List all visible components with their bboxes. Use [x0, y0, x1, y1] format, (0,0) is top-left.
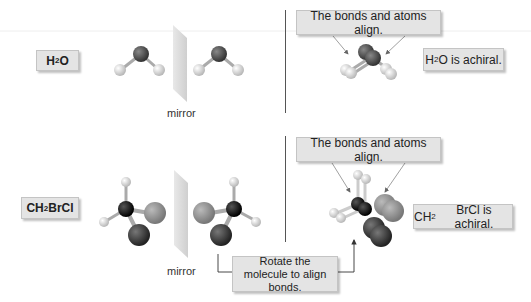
- pointer-arrow: [333, 36, 348, 54]
- ch2brcl-molecule-overlay: [329, 170, 404, 247]
- formula-text: BrCl: [48, 201, 73, 215]
- rotate-note-box: Rotate the molecule to align bonds.: [232, 256, 338, 292]
- molecule-label-ch2brcl: CH2BrCl: [21, 197, 79, 219]
- rotate-connector-arrow: [338, 240, 354, 272]
- mirror-plane: [173, 25, 187, 102]
- pointer-arrow: [385, 163, 405, 192]
- conclusion-text: H: [425, 53, 434, 67]
- mirror-label: mirror: [167, 265, 196, 277]
- conclusion-text: CH: [414, 210, 431, 224]
- formula-text: CH: [26, 201, 43, 215]
- water-molecule-overlay: [340, 44, 397, 80]
- rotate-connector-left: [218, 254, 232, 272]
- mirror-plane: [174, 170, 188, 258]
- water-molecule-left: [114, 46, 165, 76]
- conclusion-text: BrCl is achiral.: [436, 203, 512, 231]
- conclusion-box-h2o: H2O is achiral.: [423, 48, 504, 71]
- divider-line: [285, 136, 286, 242]
- formula-text: H: [46, 54, 55, 68]
- ch2brcl-molecule-right: [193, 177, 261, 246]
- divider-line: [285, 10, 286, 113]
- mirror-label: mirror: [167, 107, 196, 119]
- formula-text: O: [59, 54, 68, 68]
- conclusion-text: O is achiral.: [438, 53, 501, 67]
- ch2brcl-molecule-left: [99, 177, 166, 246]
- pointer-arrow: [332, 163, 350, 192]
- molecule-label-h2o: H2O: [36, 50, 79, 71]
- align-note-box: The bonds and atoms align.: [296, 10, 441, 35]
- water-molecule-right: [193, 46, 244, 76]
- conclusion-box-ch2brcl: CH2BrCl is achiral.: [413, 204, 513, 229]
- pointer-arrow: [386, 36, 405, 54]
- align-note-box: The bonds and atoms align.: [296, 137, 441, 162]
